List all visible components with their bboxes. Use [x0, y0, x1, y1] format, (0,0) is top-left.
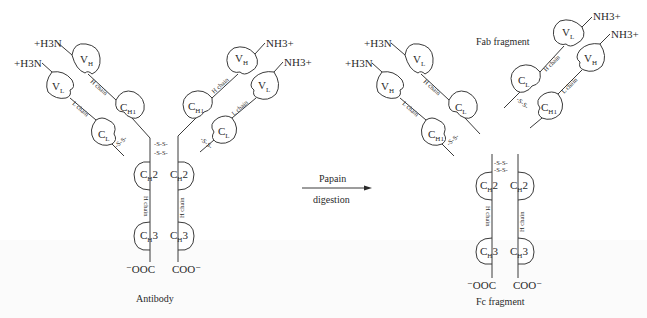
n-terminus-light-right: NH3+: [284, 56, 312, 68]
fab-fragment-left: +H3N +H3N VL VH H chain L chain CL CH1 -…: [345, 37, 480, 156]
l-chain-label-right: L chain: [230, 98, 250, 117]
antibody-left-arm: +H3N +H3N VH VL H chain L chain CH1 CL: [14, 37, 150, 162]
background-band: [0, 240, 647, 318]
c-terminus-right: COO⁻: [172, 263, 201, 275]
c-terminus-left: ⁻OOC: [126, 263, 155, 275]
fab-right-l-chain-label: L chain: [560, 75, 579, 94]
fc-h-chain-label-left: H chain: [485, 206, 492, 227]
fab-left-disulfide: -S-S-: [445, 132, 460, 146]
fab-fragment-right: Fab fragment NH3+ NH3+ VL VH H chain L c…: [476, 10, 639, 128]
hinge-disulfide-2: -S-S-: [154, 149, 168, 156]
fc-h-chain-label-right: H chain: [518, 211, 525, 232]
fab-right-n-terminus-1: NH3+: [593, 10, 621, 22]
hinge-disulfide-1: -S-S-: [154, 140, 168, 147]
n-terminus-heavy-left: +H3N: [34, 37, 62, 49]
antibody-papain-diagram: +H3N +H3N VH VL H chain L chain CH1 CL: [0, 0, 647, 318]
n-terminus-heavy-right: NH3+: [266, 37, 294, 49]
h-chain-label-stem-right: H chain: [178, 197, 185, 218]
fc-hinge-disulfide-2: -S-S-: [494, 166, 508, 173]
arrow-label-bottom: digestion: [313, 194, 350, 205]
fab-caption: Fab fragment: [476, 36, 530, 47]
fab-right-disulfide: -S-S-: [515, 96, 530, 110]
papain-digestion-arrow: Papain digestion: [302, 173, 372, 205]
l-chain-label-left: L chain: [71, 100, 91, 119]
fab-left-n-terminus-1: +H3N: [364, 37, 392, 49]
disulfide-right-arm: -S-S-: [199, 136, 214, 150]
fc-c-terminus-right: COO⁻: [513, 279, 542, 291]
fc-caption: Fc fragment: [476, 296, 525, 307]
fc-c-terminus-left: ⁻OOC: [467, 279, 496, 291]
h-chain-label-left: H chain: [89, 78, 109, 97]
fab-left-l-chain-label: L chain: [401, 100, 421, 119]
fab-right-n-terminus-2: NH3+: [611, 28, 639, 40]
arrow-head-icon: [364, 186, 372, 191]
n-terminus-light-left: +H3N: [14, 57, 42, 69]
fc-hinge-disulfide-1: -S-S-: [494, 159, 508, 166]
h-chain-label-right: H chain: [210, 75, 230, 94]
antibody-caption: Antibody: [136, 293, 174, 304]
fab-left-h-chain-label: H chain: [422, 78, 442, 97]
antibody-right-arm: NH3+ NH3+ VH VL H chain L chain CH1 CL -: [178, 37, 312, 162]
fab-left-n-terminus-2: +H3N: [345, 57, 373, 69]
h-chain-label-stem-left: H chain: [143, 196, 150, 217]
fab-right-h-chain-label: H chain: [542, 53, 562, 73]
arrow-label-top: Papain: [319, 173, 346, 184]
